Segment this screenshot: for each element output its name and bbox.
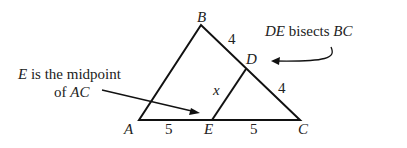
label-ec: 5 xyxy=(250,121,258,137)
label-de: x xyxy=(212,82,220,98)
vertex-d: D xyxy=(245,51,257,67)
label-dc: 4 xyxy=(278,80,286,96)
vertex-c: C xyxy=(298,121,309,137)
annotation-de-bisects: DE bisects BC xyxy=(264,23,353,39)
arrow-to-d xyxy=(273,47,332,61)
triangle-abc xyxy=(139,25,300,120)
triangle-diagram: B A C E D 4 4 5 5 x DE bisects BC E is t… xyxy=(0,0,407,148)
arrow-to-e xyxy=(102,90,196,112)
annotation-e-midpoint-line1: E is the midpoint xyxy=(17,66,122,82)
vertex-a: A xyxy=(123,121,134,137)
annotation-e-midpoint-line2: of AC xyxy=(54,84,90,100)
vertex-e: E xyxy=(203,121,213,137)
label-ae: 5 xyxy=(165,121,173,137)
vertex-b: B xyxy=(197,9,206,25)
label-bd: 4 xyxy=(228,31,236,47)
arrowhead-d-icon xyxy=(271,57,280,65)
arrowhead-e-icon xyxy=(189,108,200,115)
